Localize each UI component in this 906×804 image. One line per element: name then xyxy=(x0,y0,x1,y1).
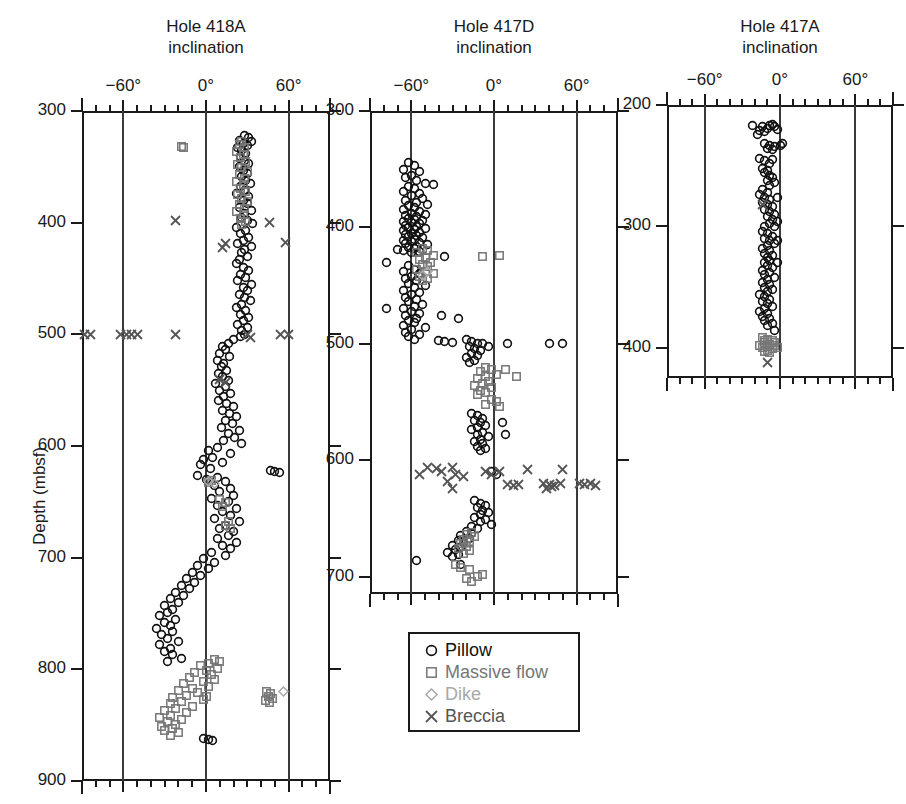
x-tick-bottom xyxy=(260,781,262,787)
x-tick-bottom xyxy=(548,594,550,600)
data-point-square xyxy=(225,523,236,534)
y-tick-label: 800 xyxy=(14,658,66,678)
gridline-x xyxy=(854,105,856,378)
y-tick-right xyxy=(618,459,629,461)
x-tick-top xyxy=(177,105,179,111)
x-tick-top xyxy=(397,105,399,111)
cross-icon xyxy=(422,707,440,725)
x-tick-top xyxy=(829,99,831,105)
x-tick-bottom xyxy=(754,378,756,384)
data-point-square xyxy=(466,576,477,587)
data-point-circle xyxy=(475,445,486,456)
x-tick-top xyxy=(548,105,550,111)
legend-item-cross: Breccia xyxy=(422,705,578,727)
x-tick-top xyxy=(493,100,495,111)
x-tick-top xyxy=(804,99,806,105)
data-point-square xyxy=(236,219,247,230)
x-tick-label: 0° xyxy=(754,70,806,90)
x-tick-top xyxy=(842,99,844,105)
x-tick-top xyxy=(779,94,781,105)
x-tick-top xyxy=(260,105,262,111)
data-point-square xyxy=(494,401,505,412)
x-tick-label: 60° xyxy=(829,70,881,90)
x-tick-top xyxy=(817,99,819,105)
x-tick-bottom xyxy=(521,594,523,600)
x-tick-bottom xyxy=(329,781,331,794)
x-tick-bottom xyxy=(867,378,869,384)
x-tick-bottom xyxy=(397,594,399,600)
y-axis-label: Depth (mbsf) xyxy=(30,447,50,545)
legend-item-diamond: Dike xyxy=(422,683,578,705)
y-tick-right xyxy=(893,347,904,349)
x-tick-bottom xyxy=(465,594,467,600)
data-point-circle xyxy=(544,338,555,349)
y-tick-label: 300 xyxy=(14,100,66,120)
data-point-cross xyxy=(447,483,458,494)
y-tick-label: 300 xyxy=(599,215,651,235)
x-tick-top xyxy=(288,100,290,111)
y-tick-label: 900 xyxy=(14,770,66,790)
x-tick-label: −60° xyxy=(385,76,437,96)
y-tick xyxy=(656,347,667,349)
y-tick-label: 300 xyxy=(302,100,354,120)
data-point-circle xyxy=(162,656,173,667)
data-point-square xyxy=(480,399,491,410)
x-tick-top xyxy=(879,99,881,105)
legend-item-label: Pillow xyxy=(445,640,492,660)
data-point-cross xyxy=(557,464,568,475)
x-tick-top xyxy=(191,105,193,111)
x-tick-bottom xyxy=(603,594,605,600)
data-point-circle xyxy=(447,337,458,348)
x-tick-top xyxy=(704,94,706,105)
gridline-x xyxy=(122,111,124,781)
panel-title-line1: Hole 418A xyxy=(82,16,330,37)
x-tick-bottom xyxy=(493,594,495,605)
x-tick-bottom xyxy=(95,781,97,787)
x-tick-top xyxy=(95,105,97,111)
x-tick-bottom xyxy=(829,378,831,384)
x-tick-bottom xyxy=(383,594,385,600)
y-tick-label: 200 xyxy=(599,94,651,114)
x-tick-bottom xyxy=(452,594,454,600)
y-tick xyxy=(71,780,82,782)
data-point-cross xyxy=(757,199,768,210)
y-tick-label: 400 xyxy=(302,216,354,236)
x-tick-bottom xyxy=(479,594,481,600)
data-point-square xyxy=(769,337,780,348)
y-tick xyxy=(656,225,667,227)
x-tick-top xyxy=(716,99,718,105)
x-tick-bottom xyxy=(191,781,193,787)
panel-title-1: Hole 417Dinclination xyxy=(370,16,618,58)
data-point-circle xyxy=(500,429,511,440)
data-point-cross xyxy=(217,242,228,253)
x-tick-bottom xyxy=(617,594,619,607)
x-tick-bottom xyxy=(879,378,881,384)
data-point-circle xyxy=(381,303,392,314)
y-tick-right xyxy=(618,576,629,578)
data-point-circle xyxy=(436,310,447,321)
y-tick xyxy=(71,222,82,224)
y-tick xyxy=(71,557,82,559)
x-tick-top xyxy=(562,105,564,111)
x-tick-top xyxy=(205,100,207,111)
x-tick-bottom xyxy=(589,594,591,600)
x-tick-top xyxy=(122,100,124,111)
x-tick-bottom xyxy=(369,594,371,607)
x-tick-top xyxy=(479,105,481,111)
data-point-diamond xyxy=(209,478,220,489)
x-tick-bottom xyxy=(274,781,276,787)
data-point-cross xyxy=(590,480,601,491)
y-tick xyxy=(359,459,370,461)
data-point-cross xyxy=(494,466,505,477)
x-tick-label: 0° xyxy=(180,76,232,96)
x-tick-top xyxy=(274,105,276,111)
x-tick-bottom xyxy=(534,594,536,600)
x-tick-top xyxy=(219,105,221,111)
data-point-circle xyxy=(557,338,568,349)
y-tick xyxy=(359,226,370,228)
x-tick-bottom xyxy=(704,378,706,389)
x-tick-bottom xyxy=(410,594,412,605)
x-tick-top xyxy=(691,99,693,105)
y-tick-label: 400 xyxy=(599,337,651,357)
x-tick-top xyxy=(521,105,523,111)
